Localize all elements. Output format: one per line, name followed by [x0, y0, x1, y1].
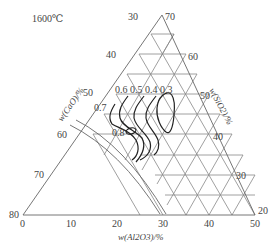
ternary-phase-diagram: 1600℃ [0, 0, 280, 251]
svg-text:40: 40 [213, 131, 223, 142]
svg-text:30: 30 [236, 170, 246, 181]
svg-text:70: 70 [165, 11, 175, 22]
contour-label-0-5: 0.5 [130, 84, 143, 95]
svg-text:50: 50 [250, 218, 260, 229]
contour-label-0-8: 0.8 [112, 127, 125, 138]
svg-text:30: 30 [128, 11, 138, 22]
svg-text:60: 60 [188, 51, 198, 62]
left-axis-ticks: 30 40 50 60 70 80 [9, 11, 138, 220]
contour-label-0-3: 0.3 [160, 84, 173, 95]
svg-text:20: 20 [258, 205, 268, 216]
contour-0-5 [134, 96, 151, 160]
svg-text:40: 40 [106, 49, 116, 60]
contour-label-0-7: 0.7 [94, 102, 107, 113]
svg-text:30: 30 [158, 218, 168, 229]
svg-text:60: 60 [57, 129, 67, 140]
contour-label-0-4: 0.4 [145, 84, 158, 95]
grid-lines [93, 34, 255, 215]
bottom-axis-title: w(Al2O3)/% [118, 232, 164, 242]
contour-label-0-6: 0.6 [115, 84, 128, 95]
right-axis-ticks: 70 60 50 40 30 20 [165, 11, 268, 216]
contour-labels: 0.6 0.5 0.4 0.3 0.7 0.8 [94, 84, 173, 138]
left-axis-title: w(CaO)/% [55, 85, 86, 123]
temperature-label: 1600℃ [32, 13, 63, 24]
svg-text:80: 80 [9, 209, 19, 220]
svg-text:40: 40 [204, 218, 214, 229]
bottom-axis-ticks: 0 10 20 30 40 50 [20, 218, 260, 229]
contour-0-3 [157, 93, 175, 133]
svg-text:10: 10 [66, 218, 76, 229]
svg-text:0: 0 [20, 218, 25, 229]
svg-text:20: 20 [112, 218, 122, 229]
svg-text:70: 70 [34, 169, 44, 180]
